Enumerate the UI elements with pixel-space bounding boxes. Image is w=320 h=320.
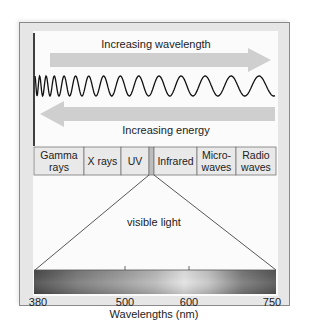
increasing-energy-label: Increasing energy: [122, 124, 209, 136]
band-uv: UV: [121, 147, 149, 175]
axis-title: Wavelengths (nm): [110, 308, 199, 320]
band-gamma-rays: Gammarays: [34, 147, 84, 175]
band-x-rays: X rays: [84, 147, 121, 175]
increasing-wavelength-label: Increasing wavelength: [101, 38, 210, 50]
tick-label-750: 750: [263, 296, 281, 308]
tick-label-600: 600: [180, 296, 198, 308]
band-infrared: Infrared: [154, 147, 197, 175]
tick-label-380: 380: [29, 296, 47, 308]
visible-light-label: visible light: [127, 216, 181, 228]
band-radio-waves: Radiowaves: [236, 147, 276, 175]
tick-label-500: 500: [116, 296, 134, 308]
band-microwaves: Micro-waves: [197, 147, 236, 175]
